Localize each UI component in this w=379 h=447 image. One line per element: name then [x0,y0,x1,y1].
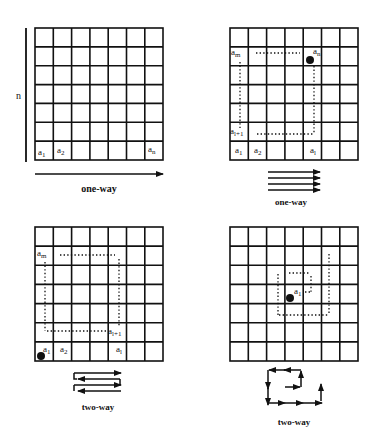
cell-label-a1: a1 [294,286,302,298]
cell-label-a2: a2 [254,145,262,157]
cell-label-al1: al+1 [108,326,122,338]
start-dot [286,294,294,302]
cell-label-am: am [231,47,241,59]
cell-label-am: am [37,248,47,260]
cell-label-a2: a2 [57,145,65,157]
cell-label-al: al [116,344,122,356]
cell-label-al1: al+1 [230,126,244,138]
caption-one-way-2: one-way [275,197,307,207]
cell-label-an: an [148,144,156,156]
panel-top-left: n a1 a2 an one-way [16,28,163,194]
panel-bottom-left: am al+1 a1 a2 al two-way [35,227,163,412]
cell-label-al: al [310,145,316,157]
cell-label-a2: a2 [60,344,68,356]
start-dot [306,56,314,64]
spiral-arrow [268,370,322,405]
caption-two-way-1: two-way [82,402,115,412]
grid-top-right [230,28,358,160]
grid-top-left [35,28,163,160]
panel-bottom-right: a1 two-way [230,227,358,427]
parallel-arrows [268,172,320,190]
diagram-canvas: n a1 a2 an one-way am an al+1 a1 a2 al [0,0,379,447]
cell-label-a1: a1 [38,147,46,159]
caption-two-way-2: two-way [278,417,311,427]
side-label-n: n [16,90,21,101]
cell-label-a1: a1 [235,145,243,157]
zigzag-arrow [74,373,121,391]
caption-one-way-1: one-way [81,183,117,194]
cell-label-an: an [313,46,321,58]
grid-bottom-left [35,227,163,361]
panel-top-right: am an al+1 a1 a2 al one-way [230,28,358,207]
